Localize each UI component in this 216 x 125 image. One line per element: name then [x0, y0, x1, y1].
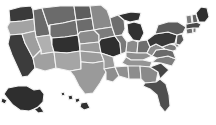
state-IN[interactable] [126, 40, 138, 53]
state-CO[interactable] [52, 35, 80, 53]
state-AL[interactable] [128, 66, 141, 79]
us-map-svg [0, 0, 216, 125]
state-NM[interactable] [54, 51, 81, 71]
us-choropleth-map [0, 0, 216, 125]
state-NY[interactable] [155, 22, 186, 35]
state-VT[interactable] [186, 15, 192, 24]
